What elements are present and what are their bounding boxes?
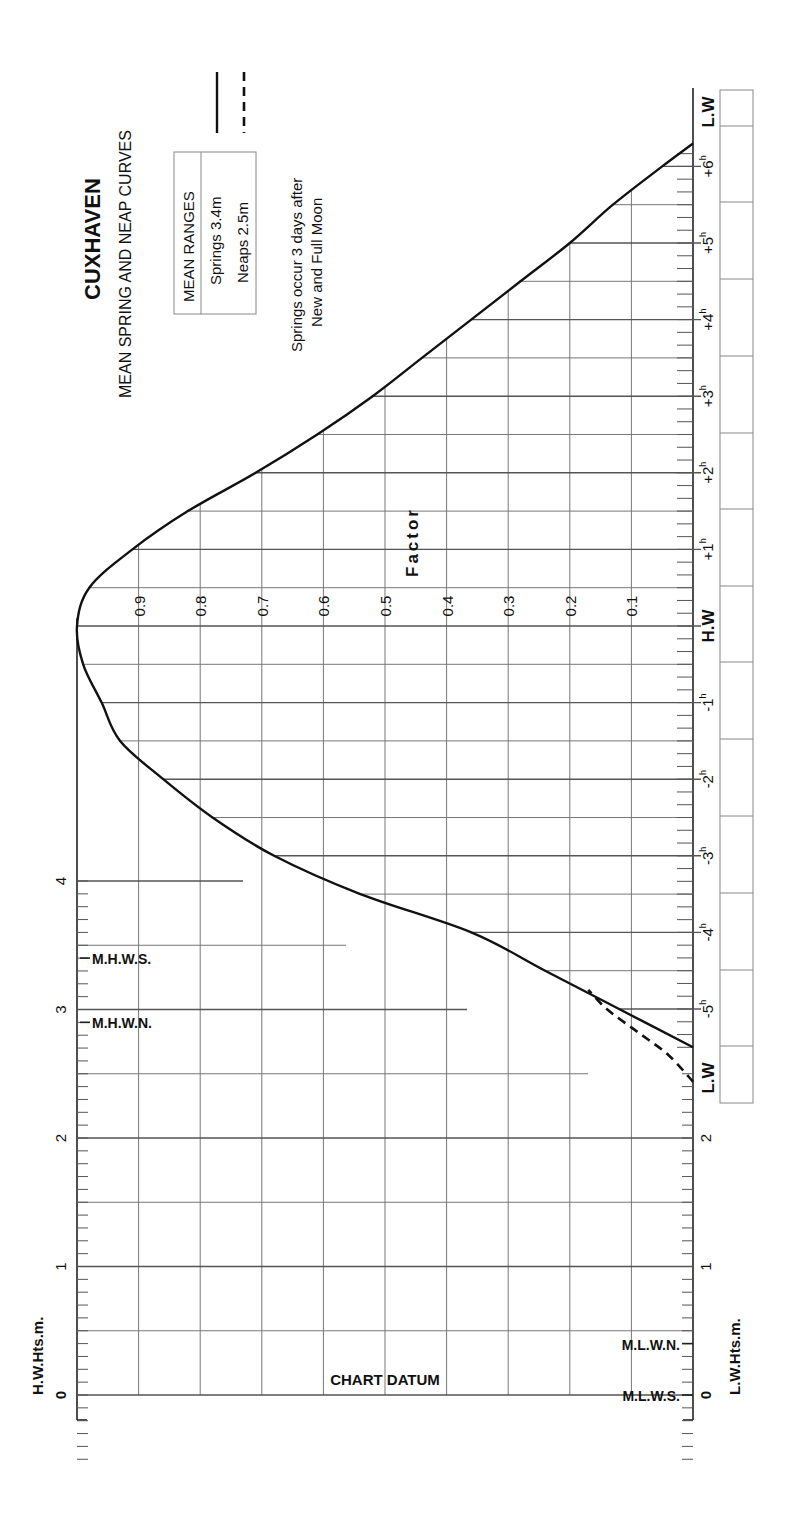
springs-note-line2: New and Full Moon xyxy=(308,198,325,327)
hw-height-tick-label-group: 2 xyxy=(52,1134,69,1142)
lw-height-tick-label-group: 2 xyxy=(697,1134,714,1142)
factor-tick-label-group: 0.3 xyxy=(500,596,517,617)
port-title: CUXHAVEN xyxy=(80,178,105,300)
springs-note-line1: Springs occur 3 days after xyxy=(288,178,305,352)
hw-height-tick-label-group: 1 xyxy=(52,1262,69,1270)
factor-tick-label-group: 0.1 xyxy=(623,596,640,617)
hw-height-tick-label-group: 4 xyxy=(52,877,69,885)
chart-subtitle: MEAN SPRING AND NEAP CURVES xyxy=(117,130,134,398)
mlwn-label: M.L.W.N. xyxy=(622,1337,680,1353)
factor-tick-label-group: 0.9 xyxy=(131,596,148,617)
factor-tick-label-group: 0.7 xyxy=(254,596,271,617)
factor-tick-label: 0.8 xyxy=(192,596,209,617)
time-label-p2: +2h xyxy=(698,462,716,484)
mhwn-label: M.H.W.N. xyxy=(92,1015,152,1031)
time-label-p3: +3h xyxy=(698,385,716,407)
factor-tick-label: 0.5 xyxy=(377,596,394,617)
hw-heights-axis-label: H.W.Hts.m. xyxy=(29,1317,46,1395)
time-label-p5: +5h xyxy=(698,232,716,254)
tidal-curve-chart: 0.90.80.70.60.50.40.30.20.1Factor+6h+5h+… xyxy=(0,0,790,1516)
factor-tick-label: 0.7 xyxy=(254,596,271,617)
hw-height-tick-label-group: 0 xyxy=(52,1391,69,1399)
time-label-p4: +4h xyxy=(698,309,716,331)
time-label-m4-group: -4h xyxy=(698,923,716,941)
time-label-hw: H.W xyxy=(699,609,718,643)
time-label-p6: +6h xyxy=(698,155,716,177)
time-label-p5-group: +5h xyxy=(698,232,716,254)
axis-labels: 0.90.80.70.60.50.40.30.20.1Factor+6h+5h+… xyxy=(29,95,743,1404)
time-label-m3: -3h xyxy=(698,847,716,865)
hw-height-tick-label: 2 xyxy=(52,1134,69,1142)
hw-height-tick-label: 3 xyxy=(52,1005,69,1013)
grid xyxy=(77,88,701,1459)
lw-heights-axis-label-group: L.W.Hts.m. xyxy=(726,1318,743,1395)
factor-axis-label-group: Factor xyxy=(403,507,422,577)
factor-tick-label-group: 0.4 xyxy=(439,596,456,617)
time-label-lw-bottom-group: L.W xyxy=(699,1061,718,1093)
time-label-lw-top: L.W xyxy=(699,95,718,127)
factor-tick-label: 0.9 xyxy=(131,596,148,617)
hw-height-tick-label: 0 xyxy=(52,1391,69,1399)
factor-tick-label-group: 0.6 xyxy=(315,596,332,617)
hw-heights-axis-label-group: H.W.Hts.m. xyxy=(29,1317,46,1395)
lw-height-tick-label-group: 0 xyxy=(697,1391,714,1399)
time-label-m3-group: -3h xyxy=(698,847,716,865)
time-label-p1: +1h xyxy=(698,538,716,560)
time-label-m1-group: -1h xyxy=(698,693,716,711)
factor-tick-label: 0.2 xyxy=(562,596,579,617)
time-label-p1-group: +1h xyxy=(698,538,716,560)
hw-height-tick-label: 4 xyxy=(52,877,69,885)
time-label-p4-group: +4h xyxy=(698,309,716,331)
factor-tick-label-group: 0.2 xyxy=(562,596,579,617)
time-label-lw-bottom: L.W xyxy=(699,1061,718,1093)
time-label-lw-top-group: L.W xyxy=(699,95,718,127)
chart-datum-label: CHART DATUM xyxy=(330,1371,440,1388)
lw-heights-axis-label: L.W.Hts.m. xyxy=(726,1318,743,1395)
time-label-m2: -2h xyxy=(698,770,716,788)
time-label-m4: -4h xyxy=(698,923,716,941)
hw-height-tick-label-group: 3 xyxy=(52,1005,69,1013)
springs-range: Springs 3.4m xyxy=(207,197,224,285)
mhws-label: M.H.W.S. xyxy=(92,951,151,967)
neaps-range: Neaps 2.5m xyxy=(234,202,251,283)
lw-height-tick-label: 2 xyxy=(697,1134,714,1142)
time-label-p6-group: +6h xyxy=(698,155,716,177)
hw-height-tick-label: 1 xyxy=(52,1262,69,1270)
time-box-frame xyxy=(720,90,753,1103)
time-label-m5: -5h xyxy=(698,1000,716,1018)
factor-tick-label: 0.3 xyxy=(500,596,517,617)
factor-axis-label: Factor xyxy=(403,507,422,577)
factor-tick-label-group: 0.8 xyxy=(192,596,209,617)
lw-height-tick-label: 1 xyxy=(697,1262,714,1270)
neaps-curve xyxy=(588,990,693,1082)
lw-height-tick-label-group: 1 xyxy=(697,1262,714,1270)
factor-tick-label: 0.6 xyxy=(315,596,332,617)
factor-tick-label-group: 0.5 xyxy=(377,596,394,617)
time-label-hw-group: H.W xyxy=(699,609,718,643)
time-label-m5-group: -5h xyxy=(698,1000,716,1018)
time-label-p2-group: +2h xyxy=(698,462,716,484)
title-block: CUXHAVEN xyxy=(80,178,105,300)
time-label-m2-group: -2h xyxy=(698,770,716,788)
lw-height-tick-label: 0 xyxy=(697,1391,714,1399)
time-label-p3-group: +3h xyxy=(698,385,716,407)
mean-ranges-header: MEAN RANGES xyxy=(180,191,197,302)
mlws-label: M.L.W.S. xyxy=(622,1388,680,1404)
time-label-m1: -1h xyxy=(698,693,716,711)
time-box-column xyxy=(720,90,753,1103)
factor-tick-label: 0.4 xyxy=(439,596,456,617)
factor-tick-label: 0.1 xyxy=(623,596,640,617)
